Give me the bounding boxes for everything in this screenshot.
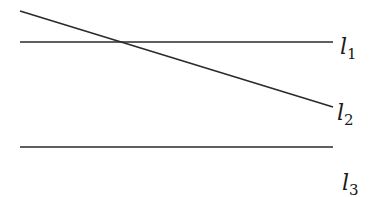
label-l2: l2 [337, 100, 354, 129]
parallel-lines-diagram: l1 l2 l3 [0, 0, 378, 197]
label-l3: l3 [342, 170, 359, 197]
line-l2 [20, 11, 333, 107]
label-l1: l1 [340, 34, 357, 63]
